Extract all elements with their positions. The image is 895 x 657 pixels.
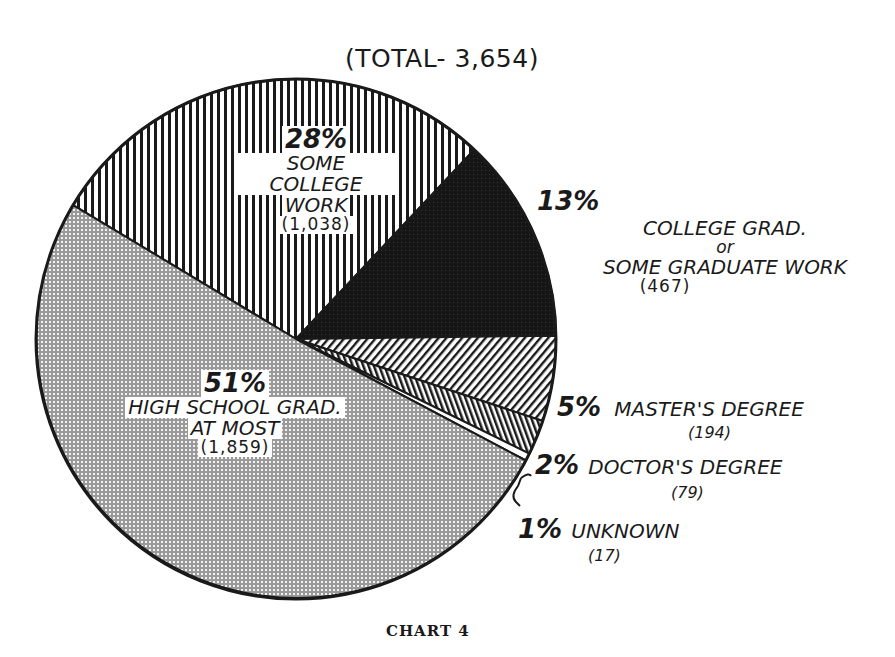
text-masters: MASTER'S DEGREE	[614, 397, 804, 421]
text-high-school-1: HIGH SCHOOL GRAD.	[125, 397, 344, 418]
text-some-college-1: SOME COLLEGE	[236, 153, 396, 195]
count-doctors: (79)	[671, 485, 704, 502]
pct-some-college: 28%	[282, 126, 350, 153]
pct-college-grad: 13%	[537, 186, 599, 216]
label-college-grad-pct: 13%	[537, 188, 599, 215]
count-some-college: (1,038)	[279, 216, 354, 234]
text-college-grad-3: SOME GRADUATE WORK	[560, 257, 890, 278]
text-unknown: UNKNOWN	[571, 519, 679, 543]
text-college-grad-1: COLLEGE GRAD.	[560, 218, 890, 239]
count-masters: (194)	[688, 425, 731, 442]
count-college-grad: (467)	[440, 278, 890, 296]
pie-chart	[0, 0, 895, 657]
pct-doctors: 2%	[535, 450, 579, 480]
text-high-school-2: AT MOST	[188, 418, 283, 439]
count-unknown: (17)	[588, 548, 621, 565]
pct-masters: 5%	[557, 392, 601, 422]
label-high-school: 51% HIGH SCHOOL GRAD. AT MOST (1,859)	[100, 370, 370, 457]
label-masters: 5% MASTER'S DEGREE	[557, 394, 804, 421]
text-doctors: DOCTOR'S DEGREE	[588, 455, 782, 479]
pct-high-school: 51%	[201, 370, 269, 397]
text-some-college-2: WORK	[282, 195, 351, 216]
label-college-grad: COLLEGE GRAD. or SOME GRADUATE WORK (467…	[560, 218, 890, 296]
chart-caption: CHART 4	[386, 622, 470, 640]
label-unknown: 1% UNKNOWN	[518, 516, 679, 543]
pct-unknown: 1%	[518, 514, 562, 544]
label-doctors: 2% DOCTOR'S DEGREE	[535, 452, 782, 479]
count-high-school: (1,859)	[198, 439, 273, 457]
label-some-college: 28% SOME COLLEGE WORK (1,038)	[236, 126, 396, 234]
